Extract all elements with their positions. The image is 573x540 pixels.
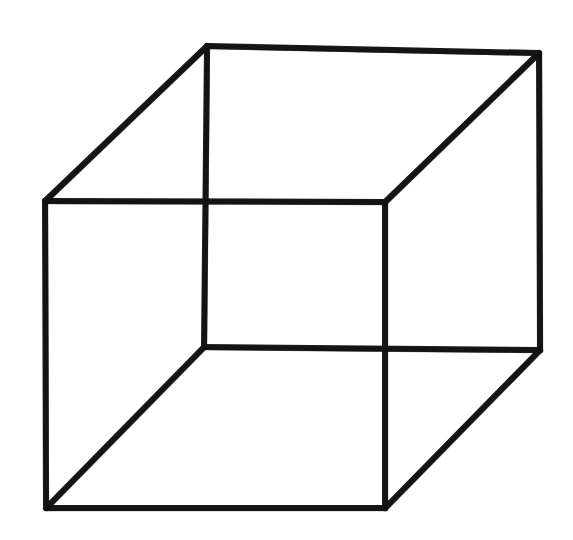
ink-back-left — [205, 47, 208, 348]
ink-back-bottom — [205, 348, 541, 351]
ink-front-top — [46, 202, 386, 203]
ink-back-right — [540, 54, 541, 351]
ink-front-left — [46, 202, 47, 509]
drawing-background — [0, 0, 573, 540]
figure-canvas — [0, 0, 573, 540]
necker-cube-drawing — [0, 0, 573, 540]
